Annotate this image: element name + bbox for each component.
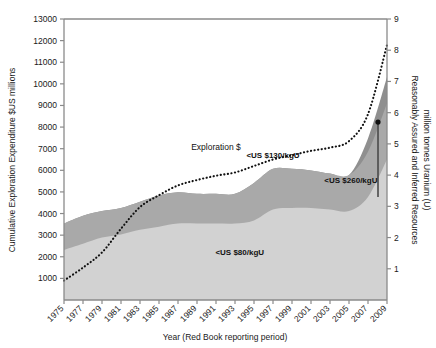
y2-tick-label: 1 [394, 264, 399, 274]
y2-tick-label: 4 [394, 170, 399, 180]
y-tick-label: 4000 [38, 209, 57, 219]
x-tick-label: 2005 [330, 303, 351, 324]
x-tick-label: 1985 [140, 303, 161, 324]
y-tick-label: 10000 [33, 79, 57, 89]
y2-tick-label: 5 [394, 139, 399, 149]
y-axis-right-title-line1: Reasonably Assured and Inferred Resource… [410, 75, 420, 244]
chart-canvas: 1000200030004000500060007000800090001000… [0, 0, 436, 348]
annotation-exploration-label: Exploration $ [191, 142, 241, 152]
x-axis-ticks: 1975197719791981198319851987198919911993… [45, 300, 389, 324]
y-tick-label: 3000 [38, 230, 57, 240]
x-tick-label: 1979 [83, 303, 104, 324]
y2-tick-label: 3 [394, 201, 399, 211]
x-tick-label: 1975 [45, 303, 66, 324]
y-axis-right-title-line2: million tonnes Uranium (U) [422, 110, 432, 211]
x-tick-label: 1983 [121, 303, 142, 324]
y-axis-left-ticks: 1000200030004000500060007000800090001000… [33, 14, 64, 283]
x-tick-label: 1993 [216, 303, 237, 324]
x-tick-label: 1999 [273, 303, 294, 324]
y-tick-label: 13000 [33, 14, 57, 24]
x-tick-label: 1981 [102, 303, 123, 324]
annotation-us260-label: <US $260/kgU [324, 176, 377, 185]
y-tick-label: 1000 [38, 273, 57, 283]
uranium-exploration-chart: 1000200030004000500060007000800090001000… [0, 0, 436, 348]
y-tick-label: 11000 [34, 57, 57, 67]
x-tick-label: 1977 [64, 303, 85, 324]
y2-tick-label: 9 [394, 14, 399, 24]
x-tick-label: 2007 [349, 303, 370, 324]
annotation-us130-label: <US $130/kgU [246, 151, 299, 160]
x-tick-label: 2009 [368, 303, 389, 324]
x-tick-label: 1991 [197, 303, 218, 324]
y-tick-label: 9000 [38, 100, 57, 110]
y-tick-label: 7000 [38, 144, 57, 154]
x-tick-label: 2001 [292, 303, 313, 324]
y2-tick-label: 2 [394, 233, 399, 243]
x-tick-label: 2003 [311, 303, 332, 324]
y2-tick-label: 6 [394, 108, 399, 118]
y-tick-label: 12000 [33, 36, 57, 46]
y2-tick-label: 7 [394, 76, 399, 86]
y2-tick-label: 8 [394, 45, 399, 55]
y-axis-right-ticks: 123456789 [387, 14, 399, 274]
y-tick-label: 2000 [38, 252, 57, 262]
x-tick-label: 1989 [178, 303, 199, 324]
y-tick-label: 5000 [38, 187, 57, 197]
y-tick-label: 8000 [38, 122, 57, 132]
x-tick-label: 1995 [235, 303, 256, 324]
y-axis-left-title: Cumulative Exploration Expenditure $US m… [7, 68, 17, 253]
x-tick-label: 1997 [254, 303, 275, 324]
y-tick-label: 6000 [38, 165, 57, 175]
annotation-us80-label: <US $80/kgU [215, 248, 264, 257]
x-tick-label: 1987 [159, 303, 180, 324]
x-axis-title: Year (Red Book reporting period) [163, 332, 288, 342]
